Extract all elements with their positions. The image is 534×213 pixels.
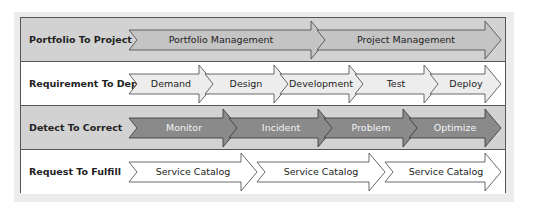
arrow-portfolio-management[interactable]: Portfolio Management xyxy=(129,21,327,59)
svg-text:Deploy: Deploy xyxy=(449,78,483,89)
arrow-group: Portfolio Management Project Management xyxy=(21,18,505,62)
arrow-service-catalog-2[interactable]: Service Catalog xyxy=(257,153,385,191)
arrow-test[interactable]: Test xyxy=(355,65,440,103)
arrow-incident[interactable]: Incident xyxy=(229,109,334,147)
arrow-group: Service Catalog Service Catalog Service … xyxy=(21,150,505,194)
arrow-service-catalog-3[interactable]: Service Catalog xyxy=(385,153,501,191)
arrow-problem[interactable]: Problem xyxy=(324,109,419,147)
svg-text:Problem: Problem xyxy=(352,122,391,133)
arrow-development[interactable]: Development xyxy=(280,65,365,103)
svg-text:Development: Development xyxy=(289,78,353,89)
arrow-deploy[interactable]: Deploy xyxy=(430,65,501,103)
svg-text:Service Catalog: Service Catalog xyxy=(284,166,359,177)
arrow-optimize[interactable]: Optimize xyxy=(409,109,501,147)
svg-text:Optimize: Optimize xyxy=(434,122,477,133)
row-requirement-to-deploy: Requirement To Deploy Demand Design Deve… xyxy=(21,62,505,106)
svg-text:Service Catalog: Service Catalog xyxy=(409,166,484,177)
svg-text:Demand: Demand xyxy=(151,78,191,89)
svg-text:Test: Test xyxy=(386,78,406,89)
svg-text:Design: Design xyxy=(230,78,263,89)
arrow-project-management[interactable]: Project Management xyxy=(317,21,501,59)
row-request-to-fulfill: Request To Fulfill Service Catalog Servi… xyxy=(21,150,505,194)
value-stream-table: Portfolio To Project Portfolio Managemen… xyxy=(20,17,506,193)
svg-text:Incident: Incident xyxy=(262,122,301,133)
arrow-monitor[interactable]: Monitor xyxy=(129,109,239,147)
svg-text:Service Catalog: Service Catalog xyxy=(156,166,231,177)
arrow-group: Demand Design Development Test Deploy xyxy=(21,62,505,106)
svg-text:Monitor: Monitor xyxy=(166,122,202,133)
row-portfolio-to-project: Portfolio To Project Portfolio Managemen… xyxy=(21,18,505,62)
svg-text:Portfolio Management: Portfolio Management xyxy=(169,34,274,45)
arrow-group: Monitor Incident Problem Optimize xyxy=(21,106,505,150)
arrow-service-catalog-1[interactable]: Service Catalog xyxy=(129,153,257,191)
arrow-design[interactable]: Design xyxy=(205,65,290,103)
svg-text:Project Management: Project Management xyxy=(357,34,455,45)
row-detect-to-correct: Detect To Correct Monitor Incident Probl… xyxy=(21,106,505,150)
arrow-demand[interactable]: Demand xyxy=(129,65,215,103)
